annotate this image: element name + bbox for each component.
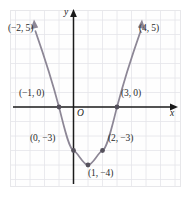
grid-lines bbox=[11, 11, 180, 186]
y-axis-label: y bbox=[64, 7, 68, 17]
point-marker-neg1-0 bbox=[57, 105, 62, 110]
point-marker-1-neg4 bbox=[86, 163, 91, 168]
point-label-0-neg3: (0, −3) bbox=[30, 133, 55, 143]
point-label-2-neg3: (2, −3) bbox=[108, 133, 133, 143]
point-marker-0-neg3 bbox=[71, 148, 76, 153]
y-axis-arrow bbox=[70, 9, 77, 17]
x-axis-label: x bbox=[170, 108, 174, 118]
point-label-3-0: (3, 0) bbox=[121, 88, 141, 98]
point-label-1-neg4: (1, −4) bbox=[88, 168, 113, 178]
point-marker-3-0 bbox=[115, 105, 120, 110]
axes bbox=[13, 15, 172, 184]
point-label-4-5: (4, 5) bbox=[139, 23, 159, 33]
point-label-neg1-0: (−1, 0) bbox=[19, 88, 44, 98]
point-label-neg2-5: (−2, 5) bbox=[8, 23, 33, 33]
origin-label: O bbox=[77, 108, 84, 118]
point-marker-2-neg3 bbox=[100, 148, 105, 153]
graph-figure: (−2, 5) (−1, 0) (0, −3) (1, −4) (2, −3) … bbox=[0, 0, 193, 200]
